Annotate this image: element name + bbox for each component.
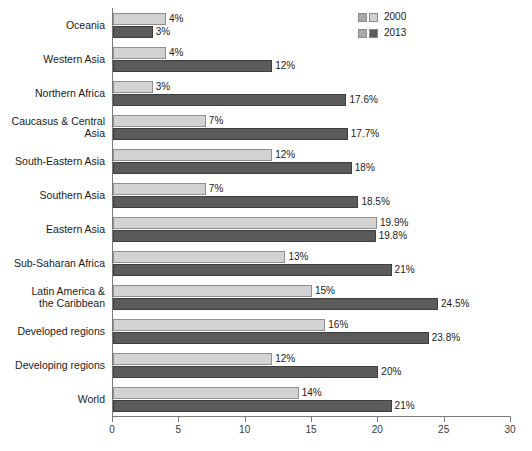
category-row: Northern Africa3%17.6% <box>112 76 510 110</box>
bar-value-label: 20% <box>381 366 401 378</box>
category-label: Northern Africa <box>0 87 105 100</box>
category-label: Eastern Asia <box>0 223 105 236</box>
bar-value-label: 12% <box>275 149 295 161</box>
bar-2013 <box>113 94 346 106</box>
category-label: Western Asia <box>0 53 105 66</box>
bar-2000 <box>113 47 166 59</box>
x-tick-label: 20 <box>372 424 383 436</box>
bar-2013 <box>113 162 352 174</box>
category-row: South-Eastern Asia12%18% <box>112 144 510 178</box>
bar-2000 <box>113 387 299 399</box>
bar-2013 <box>113 298 438 310</box>
bar-value-label: 3% <box>156 81 170 93</box>
x-tick-label: 10 <box>239 424 250 436</box>
bar-value-label: 21% <box>395 264 415 276</box>
category-label: Southern Asia <box>0 189 105 202</box>
bar-2000 <box>113 81 153 93</box>
category-label: World <box>0 393 105 406</box>
bar-2000 <box>113 217 377 229</box>
x-tick-label: 25 <box>438 424 449 436</box>
x-tick-mark <box>112 417 113 422</box>
category-row: World14%21% <box>112 382 510 416</box>
category-row: Latin America & the Caribbean15%24.5% <box>112 280 510 314</box>
bar-value-label: 23.8% <box>432 332 460 344</box>
bar-2013 <box>113 400 392 412</box>
x-tick-mark <box>510 417 511 422</box>
bar-value-label: 7% <box>209 115 223 127</box>
category-row: Developing regions12%20% <box>112 348 510 382</box>
x-tick-mark <box>178 417 179 422</box>
bar-value-label: 13% <box>288 251 308 263</box>
bar-value-label: 3% <box>156 26 170 38</box>
x-tick-label: 5 <box>176 424 182 436</box>
bar-value-label: 19.9% <box>380 217 408 229</box>
category-label: South-Eastern Asia <box>0 155 105 168</box>
bar-value-label: 4% <box>169 13 183 25</box>
bar-2013 <box>113 332 429 344</box>
category-row: Eastern Asia19.9%19.8% <box>112 212 510 246</box>
bar-value-label: 18% <box>355 162 375 174</box>
bar-value-label: 17.7% <box>351 128 379 140</box>
bar-2013 <box>113 196 358 208</box>
bar-2013 <box>113 26 153 38</box>
x-tick-mark <box>245 417 246 422</box>
bar-value-label: 12% <box>275 60 295 72</box>
bar-2000 <box>113 115 206 127</box>
bar-2000 <box>113 149 272 161</box>
x-tick-mark <box>444 417 445 422</box>
bar-chart: 2000 2013 051015202530 Oceania4%3%Wester… <box>0 0 532 451</box>
category-row: Western Asia4%12% <box>112 42 510 76</box>
bar-value-label: 21% <box>395 400 415 412</box>
x-tick-label: 0 <box>109 424 115 436</box>
category-row: Southern Asia7%18.5% <box>112 178 510 212</box>
bar-2013 <box>113 366 378 378</box>
x-tick-mark <box>311 417 312 422</box>
x-tick-mark <box>377 417 378 422</box>
category-row: Oceania4%3% <box>112 8 510 42</box>
bar-value-label: 16% <box>328 319 348 331</box>
bar-2013 <box>113 230 376 242</box>
category-label: Developing regions <box>0 359 105 372</box>
bar-value-label: 12% <box>275 353 295 365</box>
category-label: Latin America & the Caribbean <box>0 285 105 310</box>
category-label: Developed regions <box>0 325 105 338</box>
bar-2000 <box>113 353 272 365</box>
category-row: Developed regions16%23.8% <box>112 314 510 348</box>
bar-value-label: 7% <box>209 183 223 195</box>
category-label: Sub-Saharan Africa <box>0 257 105 270</box>
x-tick-label: 15 <box>305 424 316 436</box>
category-label: Oceania <box>0 19 105 32</box>
bar-value-label: 18.5% <box>361 196 389 208</box>
bar-value-label: 19.8% <box>379 230 407 242</box>
bar-value-label: 14% <box>302 387 322 399</box>
bar-value-label: 4% <box>169 47 183 59</box>
bar-2000 <box>113 183 206 195</box>
bar-value-label: 17.6% <box>349 94 377 106</box>
bar-2013 <box>113 264 392 276</box>
plot-area: 051015202530 Oceania4%3%Western Asia4%12… <box>112 8 510 416</box>
bar-2013 <box>113 60 272 72</box>
category-row: Sub-Saharan Africa13%21% <box>112 246 510 280</box>
category-row: Caucasus & Central Asia7%17.7% <box>112 110 510 144</box>
bar-2013 <box>113 128 348 140</box>
bar-2000 <box>113 13 166 25</box>
bar-2000 <box>113 285 312 297</box>
bar-value-label: 15% <box>315 285 335 297</box>
x-tick-label: 30 <box>504 424 515 436</box>
bar-2000 <box>113 319 325 331</box>
category-label: Caucasus & Central Asia <box>0 115 105 140</box>
bar-2000 <box>113 251 285 263</box>
bar-value-label: 24.5% <box>441 298 469 310</box>
